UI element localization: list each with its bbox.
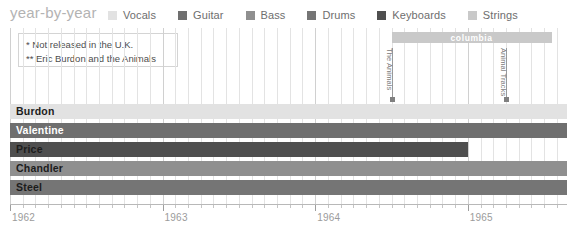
axis-tick — [442, 205, 443, 208]
release-marker: Animal Tracks — [506, 48, 507, 100]
axis-tick — [379, 205, 380, 208]
legend-label: Guitar — [193, 9, 224, 21]
axis-tick — [506, 205, 507, 208]
axis-tick — [201, 205, 202, 208]
legend-item-keyboards: Keyboards — [377, 9, 446, 21]
axis-year-label: 1964 — [317, 212, 340, 223]
axis-year-label: 1963 — [165, 212, 188, 223]
axis-tick — [430, 205, 431, 208]
row-label-chandler: Chandler — [16, 161, 63, 176]
x-axis: 1962196319641965 — [10, 204, 567, 226]
legend-label: Vocals — [123, 9, 156, 21]
axis-tick — [481, 205, 482, 208]
axis-tick — [226, 205, 227, 208]
release-title: Animal Tracks — [499, 48, 508, 96]
chart-header: year-by-year VocalsGuitarBassDrumsKeyboa… — [0, 0, 577, 28]
legend-swatch-icon — [108, 11, 117, 20]
axis-tick — [302, 205, 303, 208]
axis-line — [10, 204, 567, 205]
record-label-bar: columbia — [392, 32, 552, 43]
axis-tick — [544, 205, 545, 208]
axis-tick — [23, 205, 24, 208]
axis-tick — [557, 205, 558, 208]
timeline-bar — [10, 104, 567, 119]
axis-tick — [213, 205, 214, 208]
timeline-bar — [10, 180, 567, 195]
axis-tick — [137, 205, 138, 208]
row-label-steel: Steel — [16, 180, 42, 195]
record-label-text: columbia — [451, 33, 493, 43]
axis-tick — [35, 205, 36, 208]
axis-tick — [353, 205, 354, 208]
axis-tick — [455, 205, 456, 208]
axis-tick — [417, 205, 418, 208]
axis-tick — [10, 205, 11, 211]
legend-item-vocals: Vocals — [108, 9, 156, 21]
axis-tick — [124, 205, 125, 208]
legend-swatch-icon — [377, 11, 386, 20]
row-label-valentine: Valentine — [16, 123, 64, 138]
axis-year-label: 1965 — [470, 212, 493, 223]
axis-tick — [188, 205, 189, 208]
axis-tick — [277, 205, 278, 208]
axis-tick — [404, 205, 405, 208]
axis-tick — [290, 205, 291, 208]
legend-item-strings: Strings — [468, 9, 518, 21]
axis-tick — [150, 205, 151, 208]
axis-tick — [175, 205, 176, 208]
axis-tick — [86, 205, 87, 208]
axis-tick — [239, 205, 240, 208]
axis-tick — [341, 205, 342, 208]
legend: VocalsGuitarBassDrumsKeyboardsStrings — [108, 9, 540, 21]
legend-item-drums: Drums — [307, 9, 355, 21]
axis-tick — [519, 205, 520, 208]
release-arrow-icon — [504, 97, 509, 102]
legend-label: Keyboards — [392, 9, 446, 21]
plot-area: columbia The AnimalsAnimal Tracks Burdon… — [10, 28, 567, 226]
page-title: year-by-year — [10, 4, 97, 21]
timeline-bar — [10, 161, 567, 176]
axis-tick — [468, 205, 469, 211]
axis-tick — [315, 205, 316, 211]
legend-item-guitar: Guitar — [178, 9, 224, 21]
axis-tick — [366, 205, 367, 208]
axis-tick — [163, 205, 164, 211]
axis-tick — [392, 205, 393, 208]
axis-tick — [252, 205, 253, 208]
timeline-bar — [10, 123, 567, 138]
axis-tick — [61, 205, 62, 208]
axis-tick — [493, 205, 494, 208]
legend-swatch-icon — [246, 11, 255, 20]
axis-tick — [531, 205, 532, 208]
legend-label: Drums — [322, 9, 355, 21]
legend-item-bass: Bass — [246, 9, 286, 21]
row-label-burdon: Burdon — [16, 104, 55, 119]
axis-tick — [264, 205, 265, 208]
axis-tick — [74, 205, 75, 208]
axis-tick — [112, 205, 113, 208]
legend-label: Bass — [261, 9, 286, 21]
timeline-bar — [10, 142, 468, 157]
legend-swatch-icon — [468, 11, 477, 20]
legend-swatch-icon — [307, 11, 316, 20]
axis-tick — [99, 205, 100, 208]
legend-label: Strings — [483, 9, 518, 21]
legend-swatch-icon — [178, 11, 187, 20]
axis-year-label: 1962 — [12, 212, 35, 223]
release-title: The Animals — [385, 48, 394, 90]
axis-tick — [48, 205, 49, 208]
axis-tick — [328, 205, 329, 208]
release-arrow-icon — [390, 97, 395, 102]
row-label-price: Price — [16, 142, 43, 157]
release-marker: The Animals — [392, 48, 393, 100]
